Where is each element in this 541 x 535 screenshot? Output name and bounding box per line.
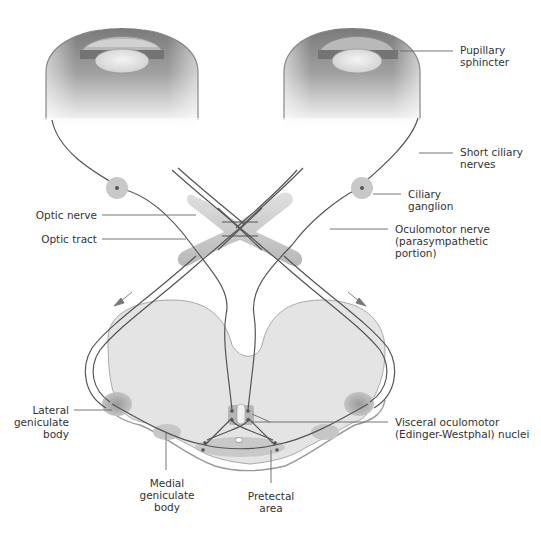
cerebral-aqueduct [235,438,243,443]
label-oculomotor-nerve: Oculomotor nerve (parasympathetic portio… [395,223,490,259]
right-eyeball [284,28,420,128]
label-medial-geniculate-body: Medial geniculate body [136,477,198,513]
label-pretectal-area: Pretectal area [240,490,302,514]
label-lateral-geniculate-body: Lateral geniculate body [14,404,69,440]
label-visceral-oculomotor-nuclei: Visceral oculomotor (Edinger-Westphal) n… [395,416,529,440]
lateral-geniculate-body-right [344,392,374,416]
label-short-ciliary-nerves: Short ciliary nerves [460,146,523,170]
label-ciliary-ganglion: Ciliary ganglion [408,188,453,212]
label-pupillary-sphincter: Pupillary sphincter [460,44,509,68]
label-optic-tract: Optic tract [41,233,97,245]
diagram-canvas [0,0,541,535]
left-eyeball [46,28,198,128]
medial-geniculate-body-left [153,424,181,440]
label-optic-nerve: Optic nerve [36,209,97,221]
